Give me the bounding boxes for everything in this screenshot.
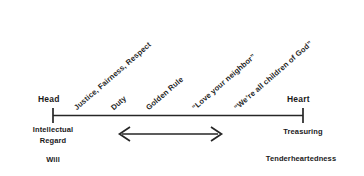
diagram-canvas: Head Intellectual Regard Will Heart Trea… <box>0 0 364 176</box>
left-pole-subtitle-line-2: Regard <box>8 137 98 145</box>
right-pole-subtitle-line-1: Treasuring <box>248 128 358 136</box>
spectrum-axis-graphic <box>0 0 364 176</box>
left-pole-faculty: Will <box>8 156 98 164</box>
right-pole-label: Heart <box>287 95 310 104</box>
left-pole-label: Head <box>38 95 60 104</box>
left-pole-subtitle-line-1: Intellectual <box>8 126 98 134</box>
bidirectional-arrow <box>120 127 222 141</box>
right-pole-faculty: Tenderheartedness <box>238 155 364 163</box>
